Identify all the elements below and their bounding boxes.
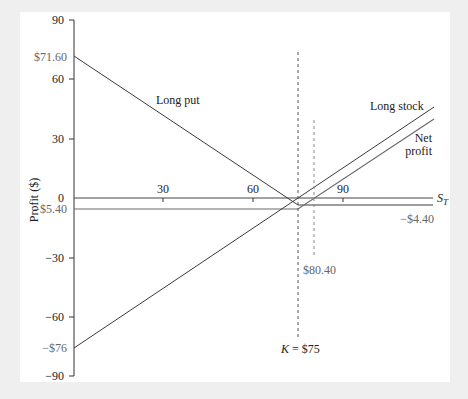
long-stock-line	[74, 107, 434, 348]
x-tick-60: 60	[247, 182, 259, 196]
long-stock-label: Long stock	[370, 99, 424, 113]
y-tick-minus60: −60	[45, 310, 64, 324]
breakeven-label: $80.40	[303, 263, 336, 277]
long-put-label: Long put	[156, 93, 200, 107]
y-tick-30: 30	[52, 132, 64, 146]
x-axis-title: ST	[437, 191, 449, 207]
net-floor-right-label: −$4.40	[400, 212, 434, 226]
x-axis-title-subscript: T	[443, 197, 449, 207]
put-intercept-label: $71.60	[34, 50, 67, 64]
x-tick-30: 30	[157, 182, 169, 196]
protective-put-chart: 90 60 30 0 −30 −60 −90 $71.60 −$5.40 −$7…	[0, 0, 468, 399]
stock-intercept-label: −$76	[42, 341, 67, 355]
y-tick-60: 60	[52, 72, 64, 86]
strike-value: = $75	[289, 342, 320, 356]
y-tick-minus30: −30	[45, 251, 64, 265]
y-axis-title: Profit ($)	[27, 178, 41, 222]
x-ticks	[163, 198, 343, 202]
net-profit-label-1: Net	[415, 131, 433, 145]
net-profit-label-2: profit	[405, 144, 432, 158]
y-tick-90: 90	[52, 13, 64, 27]
strike-label: K = $75	[280, 342, 320, 356]
y-ticks	[69, 20, 74, 376]
x-tick-90: 90	[337, 182, 349, 196]
y-tick-minus90: −90	[45, 369, 64, 383]
